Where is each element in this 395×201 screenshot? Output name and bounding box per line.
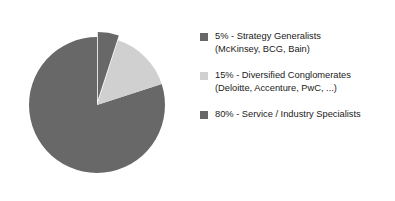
legend-label-line-1: 5% - Strategy Generalists	[215, 30, 321, 43]
legend-label-strategy-generalists: 5% - Strategy Generalists (McKinsey, BCG…	[215, 30, 321, 55]
legend-label-line-2: (McKinsey, BCG, Bain)	[215, 43, 321, 56]
legend-label-line-2: (Deloitte, Accenture, PwC, ...)	[215, 82, 351, 95]
pie-svg	[0, 0, 195, 201]
legend-item-service-industry-specialists[interactable]: 80% - Service / Industry Specialists	[200, 108, 395, 121]
pie-chart-plot	[0, 0, 195, 201]
legend-item-strategy-generalists[interactable]: 5% - Strategy Generalists (McKinsey, BCG…	[200, 30, 395, 55]
legend-label-service-industry-specialists: 80% - Service / Industry Specialists	[215, 108, 361, 121]
legend-swatch-service-industry-specialists	[200, 111, 208, 119]
legend-label-line-1: 80% - Service / Industry Specialists	[215, 108, 361, 121]
legend-swatch-diversified-conglomerates	[200, 72, 208, 80]
pie-chart-figure: 5% - Strategy Generalists (McKinsey, BCG…	[0, 0, 395, 201]
legend-item-diversified-conglomerates[interactable]: 15% - Diversified Conglomerates (Deloitt…	[200, 69, 395, 94]
legend-label-diversified-conglomerates: 15% - Diversified Conglomerates (Deloitt…	[215, 69, 351, 94]
legend-swatch-strategy-generalists	[200, 33, 208, 41]
chart-legend: 5% - Strategy Generalists (McKinsey, BCG…	[200, 30, 395, 121]
legend-label-line-1: 15% - Diversified Conglomerates	[215, 69, 351, 82]
